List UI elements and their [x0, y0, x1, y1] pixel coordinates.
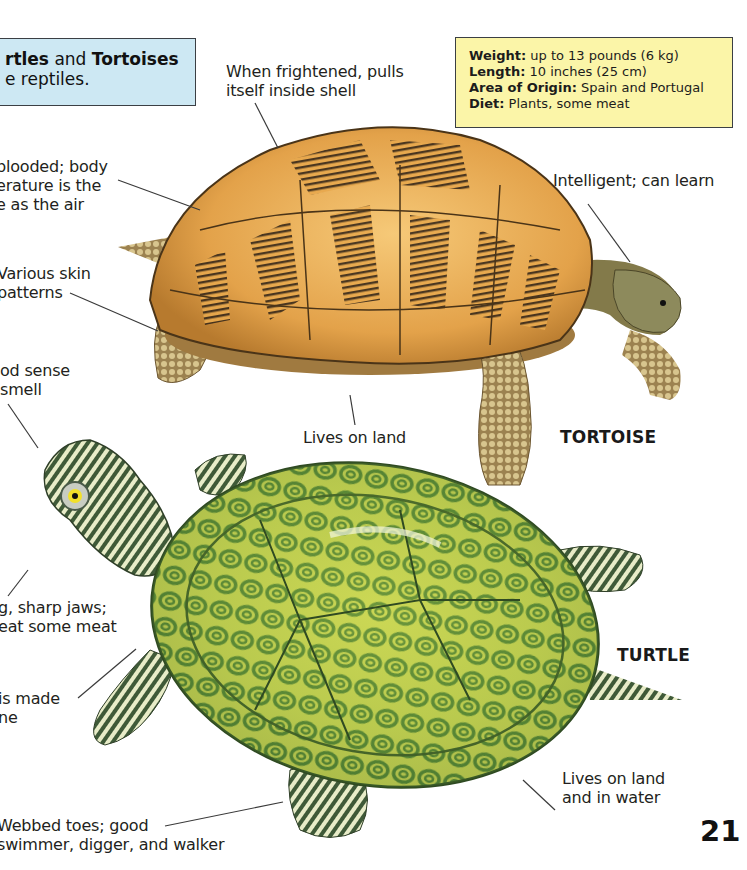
intro-line-1: rtles and Tortoises [5, 49, 195, 69]
callout-skin-patterns: Various skinpatterns [0, 264, 91, 302]
callout-smell: od sensesmell [0, 361, 70, 399]
fact-weight: Weight: up to 13 pounds (6 kg) [469, 48, 732, 64]
fact-diet: Diet: Plants, some meat [469, 96, 732, 112]
intro-line-2: e reptiles. [5, 69, 195, 89]
fact-origin: Area of Origin: Spain and Portugal [469, 80, 732, 96]
species-label-tortoise: TORTOISE [560, 427, 656, 447]
callout-intelligent: Intelligent; can learn [553, 171, 714, 190]
fact-box: Weight: up to 13 pounds (6 kg) Length: 1… [455, 37, 733, 128]
callout-shell-bone: is madene [0, 689, 60, 727]
callout-jaws: g, sharp jaws;eat some meat [0, 598, 117, 636]
page-number: 21 [700, 814, 740, 848]
callout-land-and-water: Lives on landand in water [562, 769, 665, 807]
callout-webbed-toes: Webbed toes; goodswimmer, digger, and wa… [0, 816, 224, 854]
callout-lives-on-land: Lives on land [303, 428, 406, 447]
callout-frightened: When frightened, pullsitself inside shel… [226, 62, 404, 100]
callout-cold-blooded: blooded; bodyerature is thee as the air [0, 157, 108, 214]
species-label-turtle: TURTLE [617, 645, 690, 665]
fact-length: Length: 10 inches (25 cm) [469, 64, 732, 80]
intro-box: rtles and Tortoises e reptiles. [0, 38, 196, 106]
